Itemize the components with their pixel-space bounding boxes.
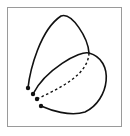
- endpoint-dot: [31, 92, 35, 96]
- lower-loop-curve: [33, 53, 106, 114]
- endpoint-dots: [26, 86, 43, 108]
- upper-loop-curve: [28, 16, 89, 88]
- diagram-canvas: [0, 0, 130, 136]
- endpoint-dot: [26, 86, 30, 90]
- dashed-connecting-arc: [37, 53, 89, 99]
- endpoint-dot: [39, 104, 43, 108]
- endpoint-dot: [35, 97, 39, 101]
